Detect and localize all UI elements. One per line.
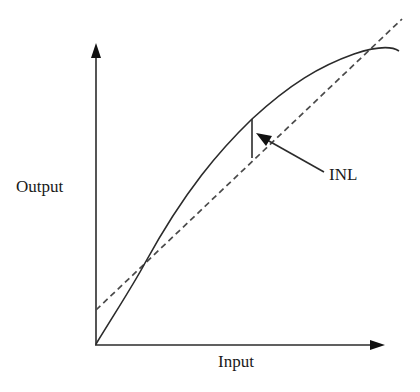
inl-annotation-label: INL bbox=[329, 166, 357, 183]
x-axis bbox=[95, 340, 385, 350]
x-axis-arrow-icon bbox=[370, 340, 385, 350]
inl-diagram bbox=[0, 0, 420, 392]
x-axis-label: Input bbox=[218, 353, 254, 370]
actual-transfer-curve bbox=[96, 47, 399, 344]
inl-pointer-arrow bbox=[260, 136, 324, 172]
y-axis-arrow-icon bbox=[91, 43, 101, 58]
y-axis bbox=[91, 43, 101, 345]
y-axis-label: Output bbox=[16, 178, 63, 195]
